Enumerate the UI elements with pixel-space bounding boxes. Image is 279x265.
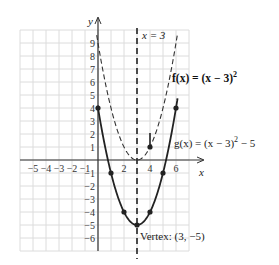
symmetry-line-label: x = 3 bbox=[141, 29, 166, 41]
svg-text:1: 1 bbox=[90, 142, 95, 153]
svg-text:4: 4 bbox=[90, 103, 95, 114]
svg-text:−4: −4 bbox=[84, 207, 95, 218]
svg-text:−5: −5 bbox=[28, 163, 39, 174]
chart: −5−4−3−2−1246987654321−1−2−3−4−5−6 y x x… bbox=[0, 0, 279, 265]
svg-text:9: 9 bbox=[90, 38, 95, 49]
svg-text:3: 3 bbox=[90, 116, 95, 127]
data-point bbox=[134, 222, 139, 227]
data-point bbox=[121, 209, 126, 214]
svg-text:−2: −2 bbox=[67, 163, 78, 174]
svg-text:−1: −1 bbox=[84, 168, 95, 179]
svg-text:−3: −3 bbox=[54, 163, 65, 174]
svg-text:−4: −4 bbox=[41, 163, 52, 174]
data-point bbox=[160, 170, 165, 175]
x-axis-label: x bbox=[198, 166, 204, 178]
data-point bbox=[108, 170, 113, 175]
data-point bbox=[147, 209, 152, 214]
svg-text:6: 6 bbox=[174, 163, 179, 174]
data-point bbox=[173, 105, 178, 110]
y-axis-label: y bbox=[87, 15, 93, 27]
data-point bbox=[147, 144, 152, 149]
svg-text:6: 6 bbox=[90, 77, 95, 88]
svg-text:−3: −3 bbox=[84, 194, 95, 205]
svg-text:4: 4 bbox=[148, 163, 153, 174]
data-point bbox=[95, 105, 100, 110]
vertex-label: Vertex: (3, −5) bbox=[140, 230, 205, 243]
f-label: f(x) = (x − 3)2 bbox=[172, 70, 237, 85]
svg-text:−6: −6 bbox=[84, 233, 95, 244]
svg-text:8: 8 bbox=[90, 51, 95, 62]
svg-text:7: 7 bbox=[90, 64, 95, 75]
g-label: g(x) = (x − 3)2 − 5 bbox=[174, 135, 256, 150]
svg-text:5: 5 bbox=[90, 90, 95, 101]
svg-text:2: 2 bbox=[122, 163, 127, 174]
svg-text:2: 2 bbox=[90, 129, 95, 140]
svg-text:−2: −2 bbox=[84, 181, 95, 192]
svg-text:−5: −5 bbox=[84, 220, 95, 231]
